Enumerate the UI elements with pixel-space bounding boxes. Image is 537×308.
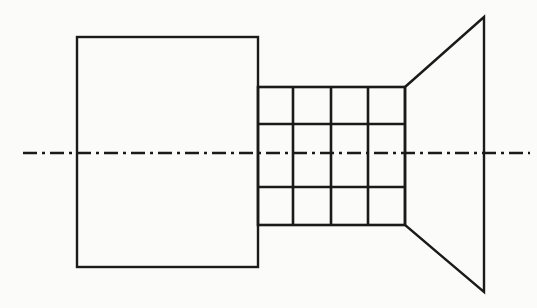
conical-flange <box>405 17 484 292</box>
technical-drawing-canvas <box>0 0 537 308</box>
technical-drawing-svg <box>0 0 537 308</box>
